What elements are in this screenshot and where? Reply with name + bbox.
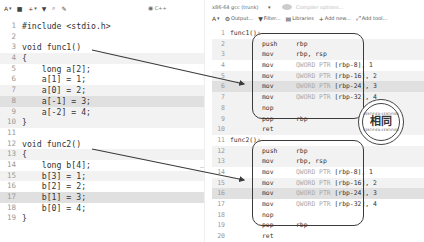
search-icon: ⌕ bbox=[52, 4, 55, 12]
line-number: 19 bbox=[0, 213, 22, 224]
line-number: 20 bbox=[212, 231, 230, 242]
source-line[interactable]: 14 long b[4]; bbox=[0, 160, 204, 171]
compiler-options-input[interactable]: Compiler options... bbox=[296, 4, 343, 10]
line-number: 8 bbox=[212, 103, 230, 114]
source-toolbar: A▾■+▾▼⌕✎ bbox=[4, 3, 73, 13]
font-size-icon: A bbox=[4, 5, 8, 12]
line-number: 14 bbox=[0, 160, 22, 171]
source-line[interactable]: 5 long a[2]; bbox=[0, 64, 204, 75]
fold-marker[interactable]: – bbox=[200, 163, 204, 170]
pin-icon: ✎ bbox=[61, 5, 66, 12]
source-line[interactable]: 12void func2() bbox=[0, 139, 204, 150]
add-new-icon: + bbox=[319, 15, 324, 22]
source-line[interactable]: 6 a[1] = 1; bbox=[0, 74, 204, 85]
line-text: long a[2]; bbox=[22, 64, 91, 75]
vim-icon: ▼ bbox=[42, 5, 47, 12]
line-number: 2 bbox=[0, 32, 22, 43]
output-icon: ⚙ bbox=[225, 15, 230, 22]
line-number: 16 bbox=[212, 188, 230, 199]
line-text: long b[4]; bbox=[22, 160, 91, 171]
toolbar-label: Add new... bbox=[325, 15, 351, 21]
source-line[interactable]: 15 b[3] = 1; bbox=[0, 171, 204, 182]
pin-button[interactable]: ✎ bbox=[61, 5, 67, 12]
line-text: b[0] = 4; bbox=[22, 203, 86, 214]
save-button[interactable]: ■ bbox=[17, 5, 24, 12]
chevron-down-icon[interactable]: ▾ bbox=[268, 4, 282, 10]
line-text: { bbox=[22, 149, 27, 160]
source-line[interactable]: 2 bbox=[0, 32, 204, 43]
line-number: 11 bbox=[212, 135, 230, 146]
filter-button[interactable]: ▼Filter... bbox=[258, 15, 280, 22]
language-selector[interactable]: ◉ C++ bbox=[148, 4, 167, 11]
source-line[interactable]: 4{ bbox=[0, 53, 204, 64]
asm-text: ret bbox=[230, 124, 296, 135]
source-line[interactable]: 1#include <stdio.h> bbox=[0, 21, 204, 32]
line-number: 2 bbox=[212, 39, 230, 50]
output-button[interactable]: ⚙Output... bbox=[225, 15, 254, 22]
line-text: } bbox=[22, 117, 27, 128]
source-line[interactable]: 19} bbox=[0, 213, 204, 224]
line-text: a[-2] = 4; bbox=[22, 107, 91, 118]
source-editor-pane: A▾■+▾▼⌕✎ ◉ C++ 1#include <stdio.h>23void… bbox=[0, 0, 204, 242]
line-number: 4 bbox=[0, 53, 22, 64]
certified-stamp: CERTIFIED CERTIFIED 相同 CERTIFIED CERTIFI… bbox=[358, 99, 404, 145]
line-number: 17 bbox=[0, 192, 22, 203]
asm-opcode: ret bbox=[262, 231, 296, 242]
font-size-button[interactable]: A▾ bbox=[212, 15, 220, 22]
line-number: 12 bbox=[212, 146, 230, 157]
toolbar-label: Libraries bbox=[292, 15, 314, 21]
toolbar-label: Output... bbox=[231, 15, 253, 21]
libraries-icon: ▤ bbox=[285, 15, 291, 22]
search-button[interactable]: ⌕ bbox=[52, 4, 56, 12]
stamp-bottom-text: CERTIFIED CERTIFIED bbox=[363, 128, 399, 132]
line-number: 6 bbox=[0, 74, 22, 85]
line-number: 3 bbox=[212, 49, 230, 60]
line-number: 18 bbox=[0, 203, 22, 214]
font-size-icon: A bbox=[212, 15, 216, 22]
source-line[interactable]: 13{ bbox=[0, 149, 204, 160]
line-number: 13 bbox=[212, 156, 230, 167]
line-text: #include <stdio.h> bbox=[22, 21, 111, 32]
vim-button[interactable]: ▼ bbox=[42, 5, 48, 12]
source-line[interactable]: 10} bbox=[0, 117, 204, 128]
compiler-select[interactable]: x86-64 gcc (trunk) bbox=[212, 4, 268, 10]
add-new-button[interactable]: +Add new... bbox=[319, 15, 351, 22]
source-line[interactable]: 3void func1() bbox=[0, 42, 204, 53]
add-tool-button[interactable]: ⤢Add tool... bbox=[356, 14, 388, 22]
libraries-button[interactable]: ▤Libraries bbox=[285, 15, 313, 22]
line-number: 14 bbox=[212, 167, 230, 178]
line-number: 7 bbox=[0, 85, 22, 96]
source-line[interactable]: 7 a[0] = 2; bbox=[0, 85, 204, 96]
source-line[interactable]: 18 b[0] = 4; bbox=[0, 203, 204, 214]
toolbar-label: ▾ bbox=[9, 5, 12, 11]
line-text: void func1() bbox=[22, 42, 81, 53]
asm-line[interactable]: 20ret bbox=[212, 231, 424, 242]
stamp-main-text: 相同 bbox=[370, 116, 392, 128]
source-line[interactable]: 16 b[2] = 2; bbox=[0, 181, 204, 192]
add-button[interactable]: +▾ bbox=[28, 5, 37, 12]
settings-icon[interactable] bbox=[282, 4, 292, 10]
line-text: b[1] = 3; bbox=[22, 192, 86, 203]
source-code[interactable]: 1#include <stdio.h>23void func1()4{5 lon… bbox=[0, 21, 204, 224]
toolbar-label: Filter... bbox=[264, 15, 281, 21]
line-text: b[3] = 1; bbox=[22, 171, 86, 182]
toolbar-label: ▾ bbox=[217, 15, 220, 21]
line-text: b[2] = 2; bbox=[22, 181, 86, 192]
line-number: 17 bbox=[212, 199, 230, 210]
add-icon: + bbox=[28, 5, 33, 12]
line-number: 3 bbox=[0, 42, 22, 53]
line-text: a[1] = 1; bbox=[22, 74, 86, 85]
toolbar-label: ▾ bbox=[34, 5, 37, 11]
font-size-button[interactable]: A▾ bbox=[4, 5, 12, 12]
add-tool-icon: ⤢ bbox=[356, 14, 361, 22]
line-number: 1 bbox=[212, 28, 230, 39]
line-text: void func2() bbox=[22, 139, 81, 150]
pane-divider[interactable] bbox=[204, 0, 205, 242]
source-line[interactable]: 9 a[-2] = 4; bbox=[0, 107, 204, 118]
line-text: a[-1] = 3; bbox=[22, 96, 91, 107]
asm-text: ret bbox=[230, 231, 296, 242]
source-line[interactable]: 8 a[-1] = 3; bbox=[0, 96, 204, 107]
source-line[interactable]: 11 bbox=[0, 128, 204, 139]
source-line[interactable]: 17 b[1] = 3; bbox=[0, 192, 204, 203]
line-number: 12 bbox=[0, 139, 22, 150]
